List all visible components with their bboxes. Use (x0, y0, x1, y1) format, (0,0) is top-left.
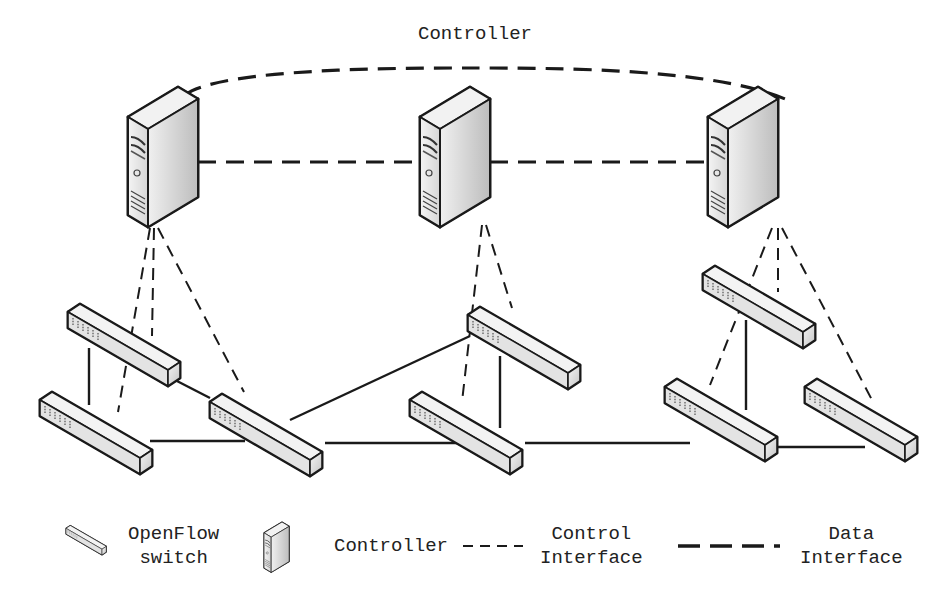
openflow-switch-7 (665, 379, 777, 461)
openflow-switch-2 (40, 392, 152, 474)
openflow-switch-6 (703, 266, 815, 348)
legend-controller-icon (264, 522, 289, 572)
legend-controller-label: Controller (334, 534, 448, 558)
openflow-switch-4 (468, 307, 580, 389)
controller-3 (708, 87, 778, 227)
legend-switch-label-line1: OpenFlow (128, 522, 219, 546)
openflow-switch-3 (210, 394, 322, 476)
openflow-switch-8 (805, 379, 917, 461)
legend-switch-label: OpenFlow switch (128, 522, 219, 570)
diagram-title: Controller (418, 22, 532, 46)
legend-data-label-line2: Interface (800, 546, 903, 570)
controller-2 (420, 87, 490, 227)
openflow-switch-5 (410, 392, 522, 474)
legend-switch-icon (66, 525, 106, 555)
legend-control-label-line1: Control (540, 522, 643, 546)
legend-control-interface-label: Control Interface (540, 522, 643, 570)
legend-control-label-line2: Interface (540, 546, 643, 570)
legend-data-label-line1: Data (800, 522, 903, 546)
sdn-network-diagram (0, 0, 951, 600)
controller-1 (128, 87, 198, 227)
legend-switch-label-line2: switch (128, 546, 219, 570)
legend-data-interface-label: Data Interface (800, 522, 903, 570)
